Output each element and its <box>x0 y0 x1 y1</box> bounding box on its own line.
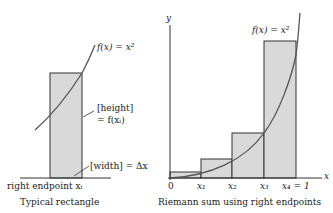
right-curve-label: f(x) = x² <box>252 26 289 35</box>
left-caption: Typical rectangle <box>20 198 99 207</box>
tick-0: 0 <box>168 182 174 191</box>
tick-x3: x₃ <box>260 182 269 191</box>
endpoint-label: right endpoint xᵢ <box>7 182 82 191</box>
left-curve-label: f(x) = x² <box>97 43 134 52</box>
y-axis-label: y <box>166 14 171 23</box>
height-leader <box>83 111 94 117</box>
tick-x2: x₂ <box>228 182 237 191</box>
height-value-label: = f(xᵢ) <box>97 116 125 125</box>
tick-x4: x₄ = 1 <box>282 182 310 191</box>
typical-rectangle <box>50 73 82 178</box>
x-axis-label: x <box>324 172 329 181</box>
width-label: [width] = Δx <box>90 162 148 171</box>
height-label: [height] <box>97 104 133 113</box>
right-caption: Riemann sum using right endpoints <box>158 198 321 207</box>
tick-x1: x₁ <box>197 182 206 191</box>
riemann-rect-4 <box>264 41 296 178</box>
